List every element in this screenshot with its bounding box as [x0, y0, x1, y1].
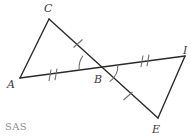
angle-arc-IBE: [110, 65, 118, 82]
vertex-label-I: I: [183, 45, 187, 56]
vertex-label-E: E: [152, 124, 160, 135]
segment-AC: [20, 19, 49, 78]
tick-marks-CB: [74, 40, 83, 48]
tick-marks-AB: [49, 69, 57, 81]
vertex-label-A: A: [7, 79, 15, 90]
vertex-label-C: C: [44, 3, 52, 14]
vertex-label-B: B: [94, 74, 102, 85]
segment-CE: [49, 19, 158, 118]
segment-IE: [158, 56, 185, 118]
angle-arc-ABC: [79, 56, 83, 70]
geometry-figure: A C B I E SAS: [0, 0, 192, 137]
diagram-canvas: [0, 0, 192, 137]
congruence-caption: SAS: [5, 122, 27, 132]
tick-marks-BE: [124, 92, 133, 100]
